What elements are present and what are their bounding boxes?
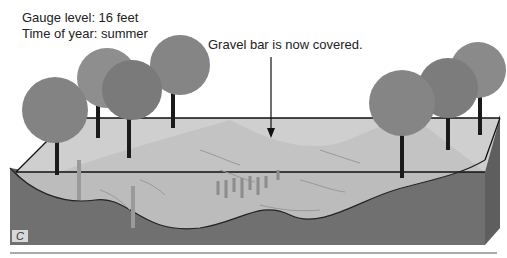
tree-icon xyxy=(102,60,162,120)
gauge-post xyxy=(77,160,81,200)
panel-letter: C xyxy=(12,230,28,242)
tree-icon xyxy=(369,70,435,136)
gravel-bar-callout: Gravel bar is now covered. xyxy=(208,37,363,53)
gauge-level-label: Gauge level: 16 feet xyxy=(22,10,138,26)
tree-icon xyxy=(22,77,88,143)
gauge-post xyxy=(131,186,135,228)
time-of-year-label: Time of year: summer xyxy=(22,26,148,42)
